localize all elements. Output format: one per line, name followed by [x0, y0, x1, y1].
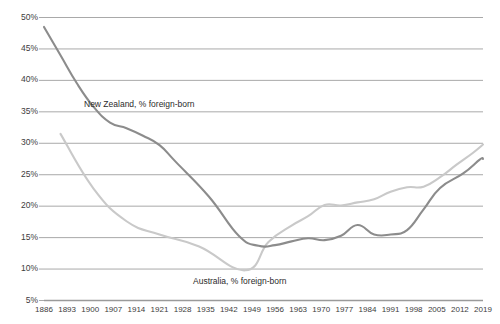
y-axis-tick-label: 35% — [4, 106, 38, 116]
y-axis-tick-label: 15% — [4, 232, 38, 242]
y-axis-tick-label: 5% — [4, 295, 38, 305]
series-label-new-zealand: New Zealand, % foreign-born — [84, 99, 195, 109]
y-axis-tick-label: 45% — [4, 43, 38, 53]
y-axis-tick-label: 40% — [4, 74, 38, 84]
series-line — [44, 27, 483, 247]
x-axis-tick-label: 2019 — [468, 305, 498, 314]
y-axis-tick-label: 30% — [4, 137, 38, 147]
y-axis-tick-label: 20% — [4, 200, 38, 210]
y-axis-tick-label: 50% — [4, 12, 38, 22]
series-label-australia: Australia, % foreign-born — [193, 276, 287, 286]
y-axis-tick-label: 10% — [4, 263, 38, 273]
y-axis-tick-label: 25% — [4, 169, 38, 179]
series-line — [61, 134, 484, 271]
series-paths-group — [44, 27, 483, 270]
gridlines-group — [39, 18, 483, 301]
chart-container: 50%45%40%35%30%25%20%15%10%5% 1886189319… — [0, 0, 500, 324]
